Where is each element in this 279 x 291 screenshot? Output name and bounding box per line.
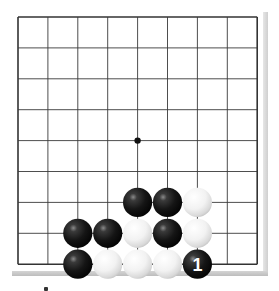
board-grid[interactable]: 1 — [0, 0, 279, 291]
white-stone — [183, 219, 212, 248]
white-stone — [153, 250, 182, 279]
move-number-label: 1 — [192, 255, 202, 275]
black-stone — [93, 219, 122, 248]
star-points — [134, 137, 140, 143]
stones: 1 — [63, 188, 212, 279]
caption-fragment — [44, 287, 48, 291]
black-stone — [153, 219, 182, 248]
star-point — [134, 137, 140, 143]
black-stone — [153, 188, 182, 217]
black-stone — [123, 188, 152, 217]
black-stone: 1 — [183, 250, 212, 279]
white-stone — [123, 250, 152, 279]
black-stone — [63, 250, 92, 279]
white-stone — [183, 188, 212, 217]
go-board: 1 — [0, 0, 279, 291]
black-stone — [63, 219, 92, 248]
white-stone — [93, 250, 122, 279]
white-stone — [123, 219, 152, 248]
